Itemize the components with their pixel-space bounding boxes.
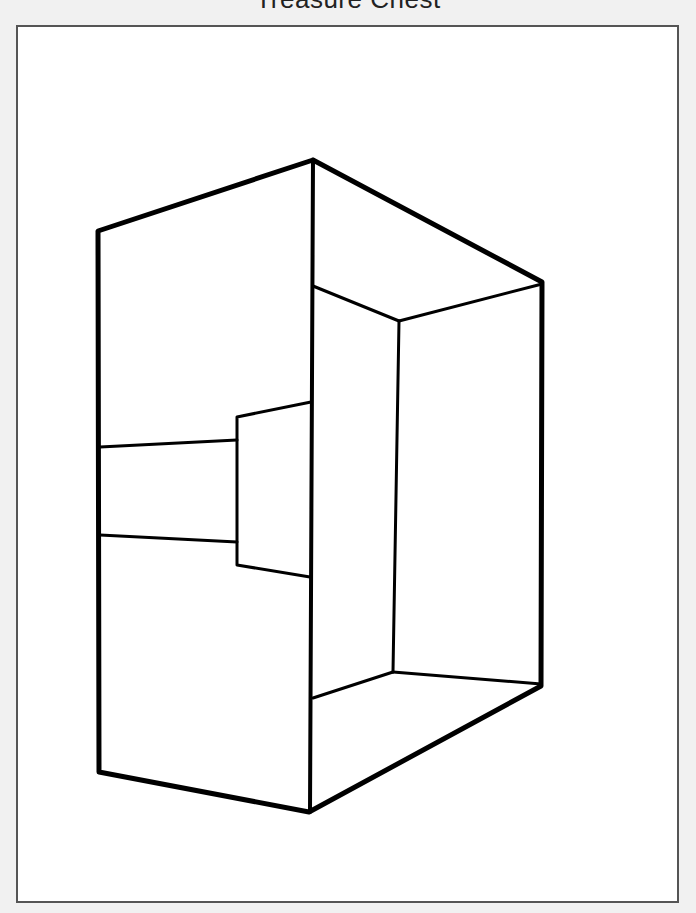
lock-plate (237, 402, 311, 577)
band-lower-line (100, 535, 237, 542)
inner-bottom-left-edge (313, 672, 393, 698)
chest-front-edge (310, 160, 313, 812)
inner-top-left-edge (313, 286, 399, 321)
treasure-chest-drawing (0, 0, 696, 913)
chest-outer-outline (98, 160, 542, 812)
inner-bottom-right-edge (393, 672, 541, 684)
inner-back-vertical-edge (393, 321, 399, 672)
band-upper-line (100, 440, 237, 447)
inner-top-right-edge (399, 284, 542, 321)
